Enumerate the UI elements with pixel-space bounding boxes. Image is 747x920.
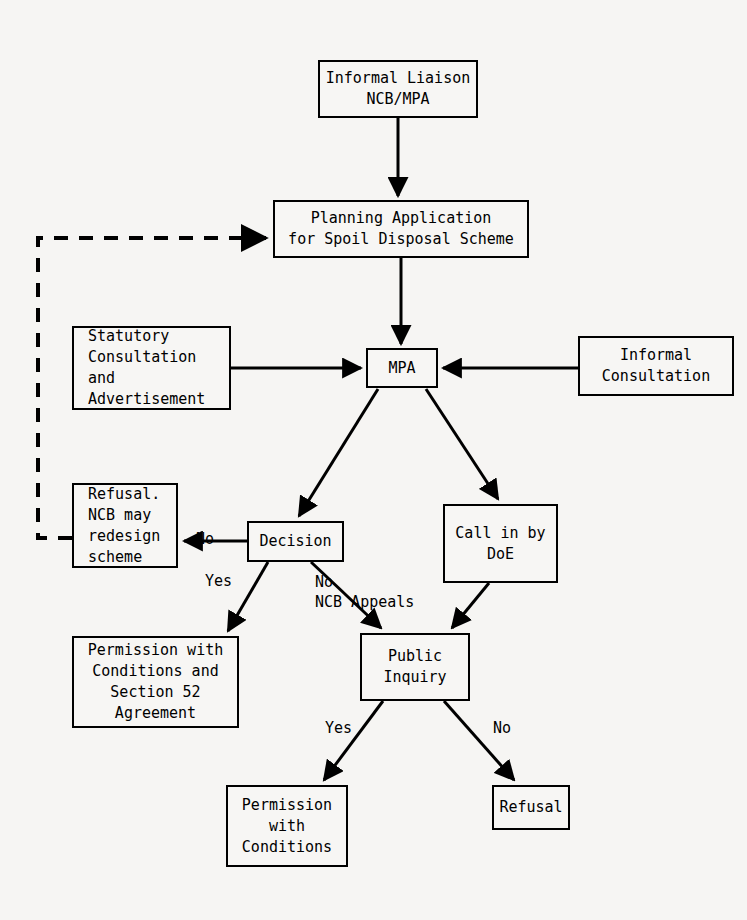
node-label: Call in by DoE: [455, 523, 545, 565]
edge-inquiry-to-refusal: [444, 701, 514, 780]
node-label: Permission with Conditions and Section 5…: [88, 640, 223, 724]
flowchart-edges-layer: [0, 0, 747, 920]
edge-decision-to-permission52: [228, 562, 268, 631]
node-label: Informal Liaison NCB/MPA: [326, 68, 471, 110]
node-label: Public Inquiry: [383, 646, 446, 688]
edge-label-appeals-no: No: [315, 572, 333, 592]
edge-callin-to-inquiry: [452, 583, 489, 628]
edge-mpa-to-decision: [299, 389, 378, 516]
edge-inquiry-to-permission: [324, 701, 383, 780]
node-label: Refusal: [499, 797, 562, 818]
node-label: Decision: [259, 531, 331, 552]
edge-label-appeals-ncb: NCB Appeals: [315, 592, 414, 612]
node-label: MPA: [388, 358, 415, 379]
edge-label-inquiry-no: No: [493, 718, 511, 738]
edge-label-decision-no: No: [196, 529, 214, 549]
flowchart-canvas: Informal Liaison NCB/MPA Planning Applic…: [0, 0, 747, 920]
node-planning-application[interactable]: Planning Application for Spoil Disposal …: [273, 200, 529, 258]
node-permission-conditions[interactable]: Permission with Conditions: [226, 785, 348, 867]
node-refusal-redesign[interactable]: Refusal. NCB may redesign scheme: [72, 483, 178, 568]
node-informal-consultation[interactable]: Informal Consultation: [578, 336, 734, 396]
node-informal-liaison[interactable]: Informal Liaison NCB/MPA: [318, 60, 478, 118]
node-refusal[interactable]: Refusal: [492, 785, 570, 830]
edge-label-inquiry-yes: Yes: [325, 718, 352, 738]
edge-label-decision-yes: Yes: [205, 571, 232, 591]
edge-mpa-to-callin: [426, 389, 498, 499]
node-label: Statutory Consultation and Advertisement: [74, 326, 205, 410]
node-call-in-doe[interactable]: Call in by DoE: [443, 504, 558, 583]
node-public-inquiry[interactable]: Public Inquiry: [360, 633, 470, 701]
node-label: Informal Consultation: [602, 345, 710, 387]
node-label: Permission with Conditions: [242, 795, 332, 858]
node-decision[interactable]: Decision: [247, 521, 344, 562]
node-permission-section52[interactable]: Permission with Conditions and Section 5…: [72, 636, 239, 728]
node-label: Refusal. NCB may redesign scheme: [74, 484, 160, 568]
node-mpa[interactable]: MPA: [366, 348, 438, 388]
node-label: Planning Application for Spoil Disposal …: [288, 208, 514, 250]
node-statutory-consultation[interactable]: Statutory Consultation and Advertisement: [72, 326, 231, 410]
